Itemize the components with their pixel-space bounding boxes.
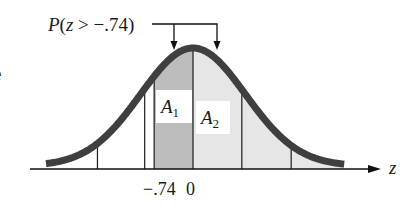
tick-label-neg-074: −.74 (143, 179, 176, 199)
annotation-bracket (152, 24, 217, 44)
normal-distribution-diagram: A1 A2 P(z > −.74) −.74 0 z e (0, 0, 405, 205)
arrow-down-icon (214, 41, 221, 50)
margin-text-fragment: e (0, 63, 1, 84)
probability-label: P(z > −.74) (47, 14, 134, 36)
arrow-down-icon (171, 41, 178, 50)
axis-variable-label: z (388, 157, 397, 178)
x-axis-arrowhead-icon (368, 165, 381, 173)
tick-label-zero: 0 (186, 179, 195, 199)
